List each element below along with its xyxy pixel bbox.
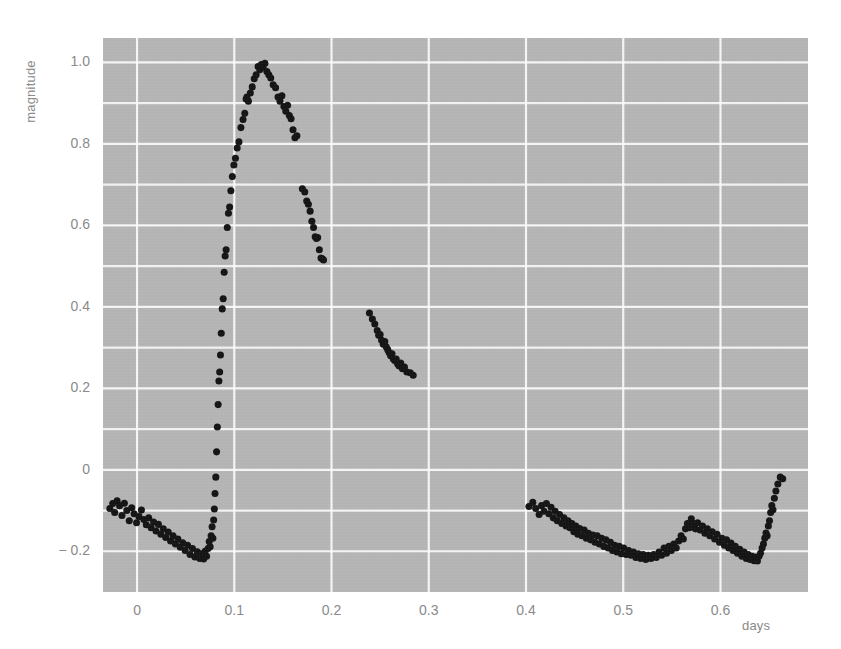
data-point [529, 499, 536, 506]
data-point [774, 481, 781, 488]
data-point [249, 83, 256, 90]
data-point [772, 487, 779, 494]
data-point [225, 210, 232, 217]
x-tick-label: 0.1 [204, 602, 264, 618]
data-point [216, 369, 223, 376]
data-point [247, 89, 254, 96]
plot-canvas [103, 38, 808, 592]
x-tick-label: 0.5 [593, 602, 653, 618]
y-tick-label: 0.2 [30, 379, 90, 395]
data-point [213, 448, 220, 455]
figure-page: magnitude days − 0.200.20.40.60.81.0 00.… [0, 0, 841, 649]
data-point [771, 495, 778, 502]
y-tick-label: − 0.2 [30, 542, 90, 558]
data-point [224, 224, 231, 231]
data-point [209, 523, 216, 530]
data-point [222, 252, 229, 259]
data-point [320, 256, 327, 263]
data-point [272, 84, 279, 91]
data-point [212, 490, 219, 497]
data-point [218, 330, 225, 337]
data-point [220, 295, 227, 302]
data-point [203, 553, 210, 560]
x-tick-label: 0.4 [496, 602, 556, 618]
data-point [207, 543, 214, 550]
data-point [289, 126, 296, 133]
data-point [278, 92, 285, 99]
data-point [301, 188, 308, 195]
data-point [209, 535, 216, 542]
data-point [235, 138, 242, 145]
data-point [680, 536, 687, 543]
data-point [241, 110, 248, 117]
y-tick-label: 0.6 [30, 216, 90, 232]
data-point [314, 234, 321, 241]
data-point [237, 124, 244, 131]
data-point [217, 351, 224, 358]
data-point [769, 506, 776, 513]
data-point [223, 246, 230, 253]
y-tick-label: 0 [30, 461, 90, 477]
light-curve-chart: magnitude days − 0.200.20.40.60.81.0 00.… [0, 0, 841, 649]
data-point [371, 320, 378, 327]
data-point [211, 505, 218, 512]
data-point [121, 500, 128, 507]
x-tick-label: 0 [107, 602, 167, 618]
data-point [267, 74, 274, 81]
data-point [229, 173, 236, 180]
y-tick-label: 0.8 [30, 135, 90, 151]
data-point [764, 532, 771, 539]
data-point [126, 517, 133, 524]
x-tick-label: 0.3 [399, 602, 459, 618]
data-point [307, 208, 314, 215]
major-gridlines [103, 38, 808, 592]
data-point [210, 516, 217, 523]
data-point [261, 60, 268, 67]
data-point [226, 204, 233, 211]
data-point [232, 155, 239, 162]
data-point [308, 218, 315, 225]
data-point [410, 372, 417, 379]
data-point [212, 474, 219, 481]
y-tick-label: 1.0 [30, 53, 90, 69]
data-point [366, 309, 373, 316]
data-point [215, 377, 222, 384]
scatter-points [106, 60, 786, 565]
data-point [230, 162, 237, 169]
data-point [219, 305, 226, 312]
data-point [673, 544, 680, 551]
plot-area [103, 38, 808, 592]
data-point [214, 424, 221, 431]
data-point [293, 132, 300, 139]
data-point [245, 98, 252, 105]
data-point [779, 475, 786, 482]
y-tick-label: 0.4 [30, 298, 90, 314]
data-point [310, 224, 317, 231]
x-axis-label: days [742, 618, 770, 633]
x-tick-label: 0.6 [690, 602, 750, 618]
data-point [766, 517, 773, 524]
data-point [138, 507, 145, 514]
data-point [111, 509, 118, 516]
data-point [288, 115, 295, 122]
data-point [284, 102, 291, 109]
data-point [215, 401, 222, 408]
data-point [234, 144, 241, 151]
data-point [221, 269, 228, 276]
data-point [133, 519, 140, 526]
data-point [305, 201, 312, 208]
data-point [240, 116, 247, 123]
data-point [316, 246, 323, 253]
data-point [227, 187, 234, 194]
x-tick-label: 0.2 [302, 602, 362, 618]
data-point [128, 504, 135, 511]
